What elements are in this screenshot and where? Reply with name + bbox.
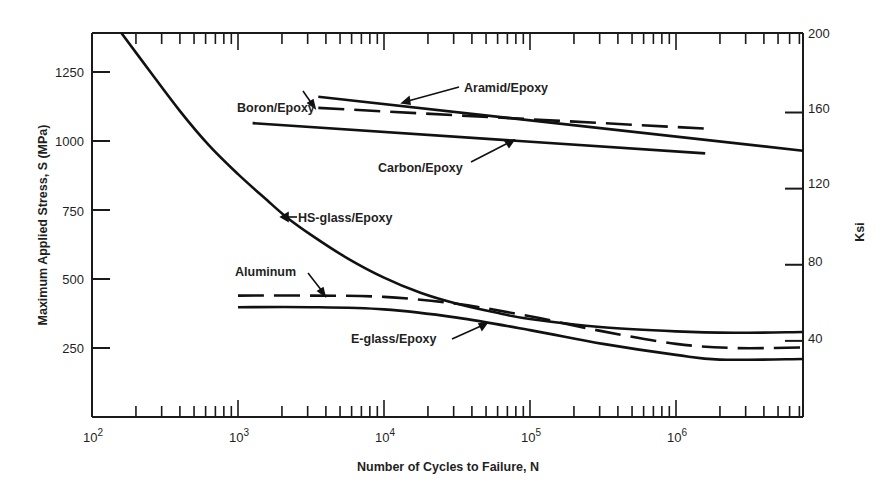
x-tick-1e5: 105 [521, 427, 541, 445]
y-axis-ticks [92, 72, 803, 348]
y2-tick-120: 120 [808, 176, 830, 191]
curve-boron-epoxy [318, 108, 705, 129]
label-e-glass-epoxy: E-glass/Epoxy [351, 332, 436, 346]
label-hs-glass-epoxy: HS-glass/Epoxy [298, 211, 393, 225]
y2-tick-80: 80 [808, 254, 822, 269]
y2-tick-200: 200 [808, 26, 830, 41]
x-tick-1e3: 103 [229, 427, 249, 445]
y-tick-500: 500 [62, 272, 84, 287]
y2-tick-40: 40 [808, 331, 822, 346]
y-axis-title: Maximum Applied Stress, S (MPa) [36, 125, 50, 326]
label-carbon-epoxy: Carbon/Epoxy [378, 161, 463, 175]
curves [121, 33, 803, 360]
y-tick-1250: 1250 [55, 65, 84, 80]
curve-carbon-epoxy [253, 123, 706, 153]
x-axis-title: Number of Cycles to Failure, N [357, 460, 539, 474]
x-tick-1e4: 104 [375, 427, 395, 445]
x-tick-labels: 102 103 104 105 106 [83, 427, 687, 445]
y2-axis-title: Ksi [853, 222, 867, 241]
x-tick-1e6: 106 [667, 427, 687, 445]
y-tick-750: 750 [62, 204, 84, 219]
label-aluminum: Aluminum [235, 265, 296, 279]
y2-tick-160: 160 [808, 101, 830, 116]
y-tick-250: 250 [62, 341, 84, 356]
label-aramid-epoxy: Aramid/Epoxy [464, 81, 548, 95]
label-boron-epoxy: Boron/Epoxy [237, 101, 315, 115]
curve-aluminum [238, 295, 803, 348]
sn-fatigue-chart: Boron/Epoxy Aramid/Epoxy Carbon/Epoxy HS… [0, 0, 887, 495]
y-tick-1000: 1000 [55, 134, 84, 149]
x-tick-1e2: 102 [83, 427, 103, 445]
curve-hs-glass-epoxy [121, 33, 803, 333]
